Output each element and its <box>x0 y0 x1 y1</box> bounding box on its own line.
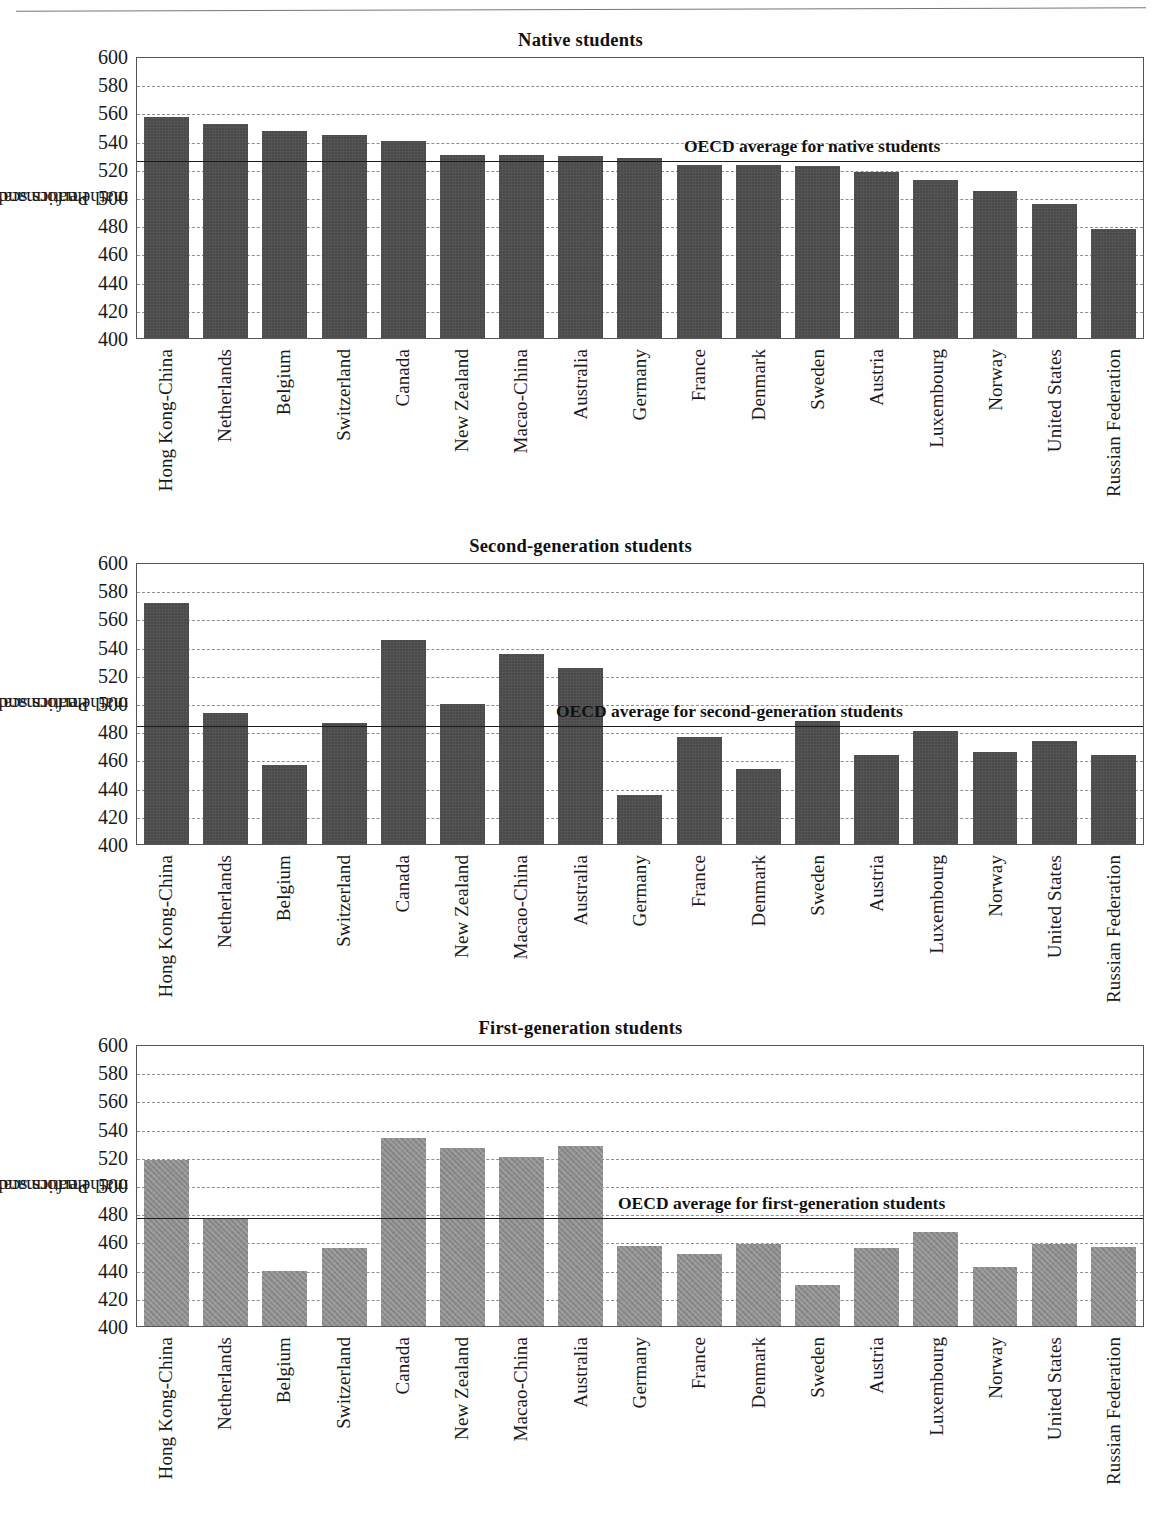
bar[interactable] <box>913 731 958 844</box>
bar[interactable] <box>1032 1244 1077 1326</box>
x-axis-label-text: France <box>688 1337 710 1389</box>
bar[interactable] <box>499 155 544 338</box>
bar[interactable] <box>677 1254 722 1326</box>
x-axis-label-text: Netherlands <box>214 1337 236 1430</box>
bar-slot <box>374 58 433 338</box>
bar-slot <box>255 58 314 338</box>
bar-slot <box>1084 58 1143 338</box>
bar[interactable] <box>203 1219 248 1326</box>
bar[interactable] <box>499 654 544 844</box>
y-axis-tick-label: 500 <box>98 1176 128 1196</box>
bar[interactable] <box>795 1285 840 1326</box>
x-axis-label-text: Luxembourg <box>926 349 948 448</box>
y-axis-tick-label: 540 <box>98 1120 128 1140</box>
x-axis-label-text: Germany <box>629 349 651 420</box>
bar[interactable] <box>736 1244 781 1326</box>
x-axis-label-text: Russian Federation <box>1103 855 1125 1003</box>
x-axis-label-text: New Zealand <box>451 855 473 958</box>
bar-slot <box>906 1046 965 1326</box>
bar[interactable] <box>913 180 958 338</box>
bar-slot <box>670 58 729 338</box>
bar-slot <box>433 1046 492 1326</box>
bar[interactable] <box>617 1246 662 1326</box>
bar[interactable] <box>1032 741 1077 844</box>
x-axis-label-text: Netherlands <box>214 349 236 442</box>
oecd-average-label: OECD average for first-generation studen… <box>618 1193 945 1214</box>
bar[interactable] <box>144 603 189 844</box>
bar[interactable] <box>558 668 603 844</box>
bar[interactable] <box>795 721 840 844</box>
bar-slot <box>315 58 374 338</box>
bar[interactable] <box>973 752 1018 844</box>
bar[interactable] <box>558 156 603 338</box>
bar[interactable] <box>1091 229 1136 338</box>
bar-slot <box>610 1046 669 1326</box>
x-axis-label-text: Russian Federation <box>1103 349 1125 497</box>
bar-slot <box>906 564 965 844</box>
bar[interactable] <box>499 1157 544 1326</box>
x-axis-label-text: Switzerland <box>333 855 355 947</box>
bar-slot <box>965 564 1024 844</box>
x-axis-label-text: Belgium <box>273 349 295 415</box>
bar-slot <box>374 1046 433 1326</box>
bar[interactable] <box>440 1148 485 1326</box>
y-axis-tick-label: 400 <box>98 329 128 349</box>
x-axis-label-text: Norway <box>985 349 1007 411</box>
bar[interactable] <box>322 723 367 844</box>
bar[interactable] <box>262 1271 307 1326</box>
chart-title: Second-generation students <box>0 536 1161 563</box>
bar[interactable] <box>144 1160 189 1326</box>
bar[interactable] <box>617 795 662 844</box>
bar-series <box>137 1046 1143 1326</box>
x-axis-label-text: Macao-China <box>510 855 532 960</box>
bar[interactable] <box>144 117 189 338</box>
bar[interactable] <box>736 165 781 338</box>
bar[interactable] <box>736 769 781 844</box>
bar[interactable] <box>973 191 1018 338</box>
x-axis-label-text: United States <box>1044 349 1066 452</box>
bar-slot <box>374 564 433 844</box>
bar[interactable] <box>1091 1247 1136 1326</box>
bar[interactable] <box>913 1232 958 1326</box>
bar[interactable] <box>322 135 367 338</box>
bar[interactable] <box>381 640 426 844</box>
bar-slot <box>729 1046 788 1326</box>
bar-slot <box>847 1046 906 1326</box>
y-axis-tick-label: 480 <box>98 216 128 236</box>
x-axis-label-text: Macao-China <box>510 349 532 454</box>
bar[interactable] <box>1032 204 1077 338</box>
bar-slot <box>492 58 551 338</box>
bar[interactable] <box>617 158 662 338</box>
bar-slot <box>788 58 847 338</box>
y-axis-tick-label: 600 <box>98 47 128 67</box>
bar[interactable] <box>203 124 248 338</box>
x-axis-label-text: New Zealand <box>451 1337 473 1440</box>
y-axis-tick-label: 520 <box>98 160 128 180</box>
bar[interactable] <box>262 765 307 844</box>
bar[interactable] <box>854 172 899 338</box>
bar[interactable] <box>677 165 722 338</box>
bar[interactable] <box>973 1267 1018 1326</box>
bar-slot <box>965 1046 1024 1326</box>
bar[interactable] <box>795 166 840 338</box>
x-axis-label-text: Hong Kong-China <box>155 855 177 997</box>
bar[interactable] <box>322 1248 367 1326</box>
y-axis-tick-label: 440 <box>98 273 128 293</box>
bar[interactable] <box>677 737 722 844</box>
bar[interactable] <box>381 141 426 338</box>
bar-slot <box>1025 1046 1084 1326</box>
bar-slot <box>433 564 492 844</box>
bar[interactable] <box>558 1146 603 1326</box>
bar[interactable] <box>203 713 248 844</box>
x-axis-label-text: Hong Kong-China <box>155 1337 177 1479</box>
bar[interactable] <box>1091 755 1136 844</box>
bar[interactable] <box>381 1138 426 1326</box>
bar[interactable] <box>854 1248 899 1326</box>
x-axis-label-text: Australia <box>570 349 592 420</box>
bar-slot <box>196 1046 255 1326</box>
y-axis-tick-label: 580 <box>98 581 128 601</box>
bar[interactable] <box>440 155 485 338</box>
bar[interactable] <box>854 755 899 844</box>
y-axis-tick-label: 600 <box>98 1035 128 1055</box>
bar-slot <box>1084 564 1143 844</box>
